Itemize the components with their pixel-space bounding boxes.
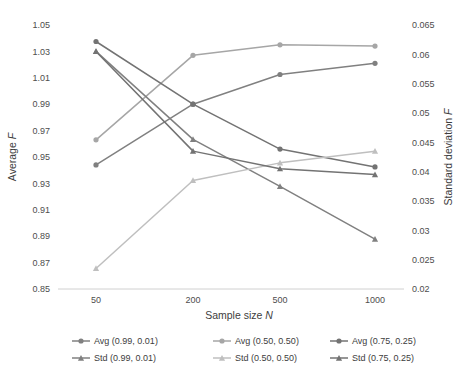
- x-axis-tick-label: 500: [272, 295, 287, 305]
- data-point-marker: [93, 137, 98, 142]
- x-axis-ticks: 502005001000: [91, 295, 385, 305]
- data-point-marker: [277, 42, 282, 47]
- series-group: [93, 61, 377, 168]
- legend-item[interactable]: Avg (0.75, 0.25): [330, 336, 416, 346]
- chart-legend: Avg (0.99, 0.01)Avg (0.50, 0.50)Avg (0.7…: [72, 336, 416, 363]
- data-point-marker: [372, 61, 377, 66]
- legend-item-label: Std (0.75, 0.25): [352, 353, 414, 363]
- series-group: [93, 48, 378, 241]
- legend-item[interactable]: Avg (0.99, 0.01): [72, 336, 158, 346]
- y-axis-left-ticks: 0.850.870.890.910.930.950.970.991.011.03…: [32, 20, 50, 294]
- series-line: [96, 51, 375, 239]
- legend-item-label: Avg (0.75, 0.25): [352, 336, 416, 346]
- data-point-marker: [93, 39, 98, 44]
- series-group: [93, 148, 378, 271]
- line-chart: 0.850.870.890.910.930.950.970.991.011.03…: [0, 0, 473, 373]
- legend-item-label: Avg (0.99, 0.01): [94, 336, 158, 346]
- legend-marker-icon: [219, 338, 224, 343]
- y-axis-right-tick-label: 0.05: [412, 108, 430, 118]
- y-axis-left-tick-label: 1.03: [32, 47, 50, 57]
- data-point-marker: [190, 102, 195, 107]
- legend-item[interactable]: Std (0.75, 0.25): [330, 353, 414, 363]
- legend-item[interactable]: Avg (0.50, 0.50): [213, 336, 299, 346]
- y-axis-right-tick-label: 0.06: [412, 50, 430, 60]
- data-point-marker: [372, 236, 378, 242]
- legend-marker-icon: [336, 338, 341, 343]
- series-line: [96, 151, 375, 268]
- y-axis-right-tick-label: 0.02: [412, 284, 430, 294]
- data-point-marker: [190, 53, 195, 58]
- y-axis-left-tick-label: 1.01: [32, 73, 50, 83]
- legend-item[interactable]: Std (0.50, 0.50): [213, 353, 297, 363]
- y-axis-right-tick-label: 0.055: [412, 79, 435, 89]
- y-axis-left-tick-label: 0.99: [32, 99, 50, 109]
- x-axis-tick-label: 50: [91, 295, 101, 305]
- y-axis-left-tick-label: 0.93: [32, 179, 50, 189]
- y-axis-left-tick-label: 0.87: [32, 258, 50, 268]
- y-axis-right-tick-label: 0.065: [412, 20, 435, 30]
- data-point-marker: [277, 146, 282, 151]
- data-point-marker: [372, 44, 377, 49]
- y-axis-left-title: Average F: [6, 132, 18, 181]
- y-axis-right-tick-label: 0.03: [412, 226, 430, 236]
- data-point-marker: [93, 48, 99, 54]
- chart-container: 0.850.870.890.910.930.950.970.991.011.03…: [0, 0, 473, 373]
- data-point-marker: [93, 162, 98, 167]
- data-point-marker: [277, 183, 283, 189]
- y-axis-right-title: Standard deviation F: [442, 108, 454, 205]
- legend-item-label: Avg (0.50, 0.50): [235, 336, 299, 346]
- y-axis-left-tick-label: 0.91: [32, 205, 50, 215]
- y-axis-right-ticks: 0.020.0250.030.0350.040.0450.050.0550.06…: [412, 20, 435, 294]
- y-axis-left-tick-label: 0.95: [32, 152, 50, 162]
- x-axis-tick-label: 1000: [365, 295, 385, 305]
- data-point-marker: [277, 72, 282, 77]
- y-axis-left-tick-label: 0.89: [32, 231, 50, 241]
- data-point-marker: [372, 164, 377, 169]
- y-axis-left-tick-label: 0.97: [32, 126, 50, 136]
- series-line: [96, 63, 375, 165]
- y-axis-left-tick-label: 1.05: [32, 20, 50, 30]
- y-axis-left-tick-label: 0.85: [32, 284, 50, 294]
- legend-item-label: Std (0.99, 0.01): [94, 353, 156, 363]
- y-axis-right-tick-label: 0.045: [412, 138, 435, 148]
- legend-marker-icon: [78, 338, 83, 343]
- y-axis-right-tick-label: 0.025: [412, 255, 435, 265]
- y-axis-right-tick-label: 0.035: [412, 196, 435, 206]
- legend-item[interactable]: Std (0.99, 0.01): [72, 353, 156, 363]
- x-axis-tick-label: 200: [185, 295, 200, 305]
- y-axis-right-tick-label: 0.04: [412, 167, 430, 177]
- legend-item-label: Std (0.50, 0.50): [235, 353, 297, 363]
- x-axis-title: Sample size N: [205, 309, 273, 321]
